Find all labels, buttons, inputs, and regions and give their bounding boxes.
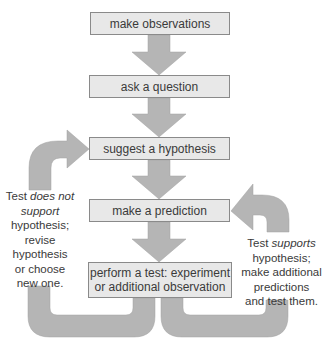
- step-label: ask a question: [121, 80, 198, 94]
- down-arrow-4: [132, 222, 186, 262]
- step-ask-question: ask a question: [89, 75, 230, 98]
- step-perform-test: perform a test: experiment or additional…: [88, 262, 232, 298]
- feedback-left-note: Test does not support hypothesis; revise…: [0, 189, 80, 291]
- right-feedback-arrow: [231, 184, 289, 232]
- note-text: revise: [0, 233, 80, 248]
- note-text: or choose: [0, 262, 80, 277]
- note-text: Test: [6, 190, 30, 202]
- step-make-observations: make observations: [90, 12, 230, 35]
- step-label: suggest a hypothesis: [103, 142, 216, 156]
- down-arrow-2: [132, 98, 186, 137]
- note-emphasis: does not: [30, 190, 74, 202]
- note-text: hypothesis;: [236, 251, 327, 266]
- step-label-line2: or additional observation: [95, 280, 226, 294]
- step-label-line1: perform a test: experiment: [90, 266, 230, 280]
- step-label: make a prediction: [112, 204, 207, 218]
- note-emphasis: support: [21, 205, 59, 217]
- step-suggest-hypothesis: suggest a hypothesis: [89, 137, 230, 160]
- down-arrow-1: [132, 35, 186, 75]
- note-emphasis: supports: [272, 237, 316, 249]
- note-text: predictions: [236, 280, 327, 295]
- step-make-prediction: make a prediction: [89, 199, 230, 222]
- note-text: hypothesis;: [0, 218, 80, 233]
- note-text: and test them.: [236, 294, 327, 309]
- step-label: make observations: [110, 17, 211, 31]
- note-text: Test: [247, 237, 271, 249]
- note-text: hypothesis: [0, 247, 80, 262]
- feedback-right-note: Test supports hypothesis; make additiona…: [236, 236, 327, 309]
- note-text: make additional: [236, 265, 327, 280]
- note-text: new one.: [0, 276, 80, 291]
- down-arrow-3: [132, 160, 186, 199]
- left-feedback-arrow: [29, 130, 89, 190]
